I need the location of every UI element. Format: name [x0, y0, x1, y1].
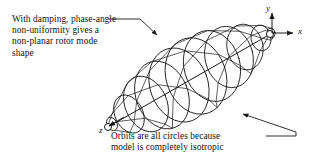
note-line: Orbits are all circles because: [111, 131, 224, 142]
orbit-ellipse: [223, 21, 268, 73]
bottom-leader-path: [243, 114, 296, 136]
note-line: non-planar rotor mode: [12, 36, 116, 47]
orbit-ellipse: [125, 53, 199, 137]
rotor-mode-shape-figure: With damping, phase-angle non-uniformity…: [0, 0, 313, 161]
bottom-annotation-leader: [243, 114, 296, 136]
orbit-ellipse: [155, 30, 236, 123]
orbit-ellipse: [175, 24, 249, 109]
note-line: non-uniformity gives a: [12, 25, 116, 36]
note-line: shape: [12, 48, 116, 59]
z-axis-label: z: [99, 126, 103, 135]
x-axis-label: x: [298, 27, 302, 36]
coordinate-axis-triad: [109, 13, 293, 126]
note-line: model is completely isotropic: [111, 142, 224, 153]
note-line: With damping, phase-angle: [12, 14, 116, 25]
z-axis-line: [109, 117, 124, 126]
isotropic-orbits-note: Orbits are all circles because model is …: [111, 131, 224, 153]
damping-phase-angle-note: With damping, phase-angle non-uniformity…: [12, 14, 116, 59]
y-axis-label: y: [266, 4, 270, 13]
